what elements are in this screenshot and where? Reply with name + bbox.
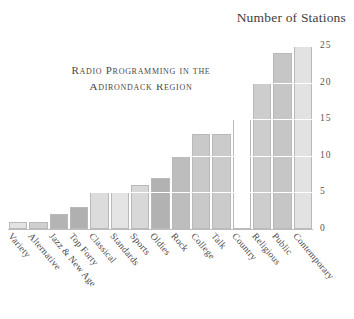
bar-cell	[130, 46, 150, 229]
x-axis-category-labels: VarietyAlternativeJazz & New AgeTop Fort…	[8, 231, 313, 317]
bar-cell	[8, 46, 28, 229]
bar-cell	[232, 46, 252, 229]
bar-cell	[28, 46, 48, 229]
bar-series	[8, 46, 313, 229]
plot-area	[8, 46, 313, 229]
radio-programming-bar-chart: Number of Stations Radio Programming in …	[0, 0, 354, 319]
bar-jazz-new-age	[50, 214, 68, 229]
gridline-15	[8, 119, 313, 120]
bar-cell	[171, 46, 191, 229]
bar-public	[273, 53, 291, 229]
bar-cell	[191, 46, 211, 229]
gridline-5	[8, 192, 313, 193]
bar-standards	[111, 192, 129, 229]
x-label-oldies: Oldies	[149, 231, 173, 257]
x-label-talk: Talk	[210, 231, 229, 251]
bar-cell	[293, 46, 313, 229]
y-tick-5: 5	[320, 186, 326, 196]
gridline-20	[8, 83, 313, 84]
bar-country	[233, 119, 251, 229]
bar-cell	[252, 46, 272, 229]
bar-top-forty	[70, 207, 88, 229]
bar-contemporary	[294, 46, 312, 229]
y-tick-15: 15	[320, 113, 332, 123]
x-axis-line	[8, 229, 313, 230]
bar-cell	[150, 46, 170, 229]
gridline-10	[8, 156, 313, 157]
bar-cell	[272, 46, 292, 229]
x-label-contemporary: Contemporary	[291, 231, 335, 281]
bar-cell	[89, 46, 109, 229]
y-axis-title: Number of Stations	[237, 10, 346, 26]
bar-college	[192, 134, 210, 229]
bar-cell	[69, 46, 89, 229]
bar-cell	[49, 46, 69, 229]
y-tick-0: 0	[320, 223, 326, 233]
y-tick-25: 25	[320, 40, 332, 50]
y-tick-10: 10	[320, 150, 332, 160]
gridline-25	[8, 46, 313, 47]
bar-variety	[9, 222, 27, 229]
bar-oldies	[151, 178, 169, 229]
bar-classical	[90, 192, 108, 229]
y-tick-20: 20	[320, 77, 332, 87]
bar-cell	[211, 46, 231, 229]
bar-alternative	[29, 222, 47, 229]
bar-cell	[110, 46, 130, 229]
bar-talk	[212, 134, 230, 229]
